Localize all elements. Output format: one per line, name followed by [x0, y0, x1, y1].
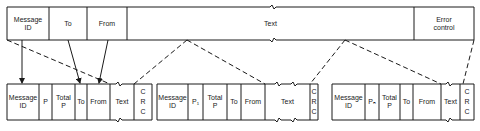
packet-3-to: To	[400, 84, 413, 120]
packet-1-to: To	[75, 84, 87, 120]
packet-2-total-packets: Total P	[203, 84, 227, 120]
message-field-text: Text	[127, 7, 414, 40]
packet-2-packet-number: P₁	[188, 84, 203, 120]
packet-2-text: Text	[265, 84, 310, 120]
packet-3-crc: C R C	[460, 84, 474, 120]
message-field-from: From	[87, 7, 127, 40]
expansion-dashed-lines	[7, 40, 474, 84]
message-field-to: To	[49, 7, 87, 40]
packet-2-crc: C R C	[310, 84, 318, 120]
packet-3-packet-number: Pₙ	[365, 84, 379, 120]
packet-1-packet-number: P	[39, 84, 52, 120]
packet-1-total-packets: Total P	[52, 84, 75, 120]
message-field-error-control: Error control	[414, 7, 474, 40]
packet-1-from: From	[87, 84, 110, 120]
packet-3-message-id: Message ID	[332, 84, 365, 120]
packet-1-crc: C R C	[134, 84, 152, 120]
packet-2-message-id: Message ID	[157, 84, 188, 120]
packet-2-from: From	[241, 84, 265, 120]
message-field-message-id: Message ID	[7, 7, 49, 40]
packet-1-message-id: Message ID	[7, 84, 39, 120]
header-copy-arrows	[22, 40, 108, 83]
packet-1-text: Text	[110, 84, 134, 120]
packet-3-total-packets: Total P	[379, 84, 400, 120]
packet-3-from: From	[413, 84, 441, 120]
packetization-diagram: Message ID To From Text Error control Me…	[0, 0, 480, 131]
packet-2-to: To	[227, 84, 241, 120]
packet-3-text: Text	[441, 84, 460, 120]
